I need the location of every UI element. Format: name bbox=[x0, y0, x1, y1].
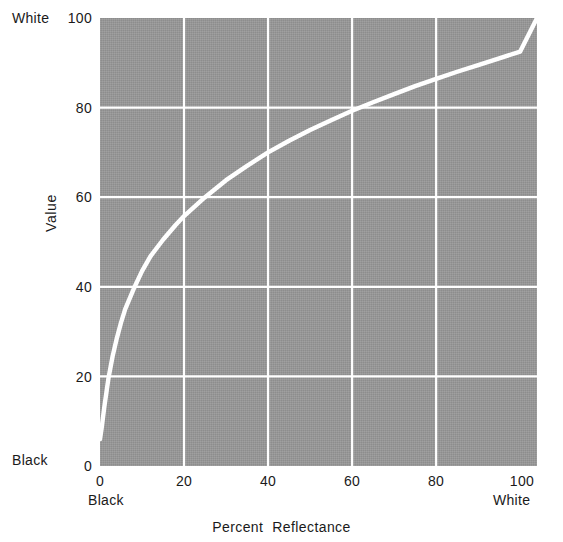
y-tick-label-20: 20 bbox=[36, 369, 92, 385]
x-axis-title: PercentReflectance bbox=[0, 519, 563, 535]
x-tick-label-60: 60 bbox=[332, 473, 372, 489]
x-axis-right-end-label-white: White bbox=[493, 492, 530, 508]
x-tick-label-100: 100 bbox=[500, 473, 544, 489]
x-tick-label-40: 40 bbox=[248, 473, 288, 489]
x-axis-title-word-1: Percent bbox=[212, 519, 263, 535]
y-axis-title: Value bbox=[43, 212, 59, 232]
plot-area bbox=[100, 18, 537, 466]
x-axis-title-word-2: Reflectance bbox=[272, 519, 350, 535]
y-tick-label-40: 40 bbox=[36, 279, 92, 295]
y-tick-label-80: 80 bbox=[36, 100, 92, 116]
y-axis-top-end-label-white: White bbox=[12, 10, 49, 26]
y-axis-bottom-end-label-black: Black bbox=[12, 452, 48, 468]
x-tick-label-0: 0 bbox=[80, 473, 120, 489]
x-axis-left-end-label-black: Black bbox=[88, 492, 124, 508]
x-tick-label-80: 80 bbox=[416, 473, 456, 489]
x-tick-label-20: 20 bbox=[164, 473, 204, 489]
data-curve bbox=[100, 18, 537, 466]
figure-munsell-value-reflectance: 100 80 60 40 20 0 White Black Value 0 20… bbox=[0, 0, 563, 542]
